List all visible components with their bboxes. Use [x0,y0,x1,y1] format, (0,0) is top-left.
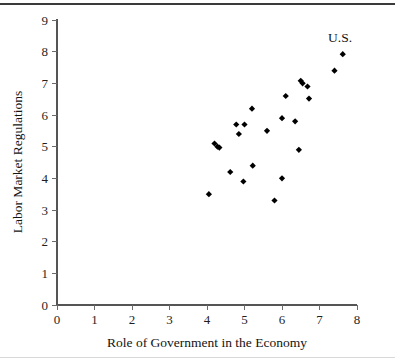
scatter-plot: 0123456789 012345678 U.S. Role of Govern… [0,0,395,364]
data-point [306,95,312,101]
x-tick-label-6: 6 [279,312,286,327]
data-point [233,121,239,127]
y-tick-group [52,20,57,305]
x-tick-group [57,305,357,310]
y-tick-label-0: 0 [42,298,49,313]
y-tick-label-4: 4 [42,171,49,186]
data-point [331,68,337,74]
y-axis: 0123456789 [42,13,58,313]
data-point [279,115,285,121]
y-tick-label-8: 8 [42,44,49,59]
x-tick-label-5: 5 [241,312,248,327]
x-tick-label-8: 8 [354,312,361,327]
y-tick-label-7: 7 [42,76,49,91]
figure-container: 0123456789 012345678 U.S. Role of Govern… [0,0,395,364]
x-axis: 012345678 [54,305,361,327]
x-tick-label-4: 4 [204,312,211,327]
x-axis-title: Role of Government in the Economy [107,335,307,350]
y-tick-label-9: 9 [42,13,49,28]
y-tick-label-1: 1 [42,266,49,281]
y-tick-label-5: 5 [42,139,49,154]
data-point [241,121,247,127]
data-point [296,147,302,153]
data-point [249,106,255,112]
x-tick-label-1: 1 [91,312,98,327]
x-tick-label-7: 7 [316,312,323,327]
data-point [264,128,270,134]
x-tick-label-group: 012345678 [54,312,361,327]
x-tick-label-0: 0 [54,312,61,327]
annotation-group: U.S. [328,30,352,45]
y-tick-label-group: 0123456789 [42,13,49,313]
data-point [250,163,256,169]
y-tick-label-2: 2 [42,234,49,249]
y-axis-title: Labor Market Regulations [10,91,25,233]
y-tick-label-3: 3 [42,203,49,218]
data-point [236,131,242,137]
annotation-label: U.S. [328,30,352,45]
data-point [271,197,277,203]
data-point [283,93,289,99]
x-tick-label-2: 2 [129,312,136,327]
data-point-group [206,51,346,204]
data-point [304,83,310,89]
data-point [279,175,285,181]
data-point [240,178,246,184]
data-point [292,118,298,124]
y-tick-label-6: 6 [42,108,49,123]
data-point [227,169,233,175]
x-tick-label-3: 3 [166,312,173,327]
data-point [340,51,346,57]
data-point [206,191,212,197]
